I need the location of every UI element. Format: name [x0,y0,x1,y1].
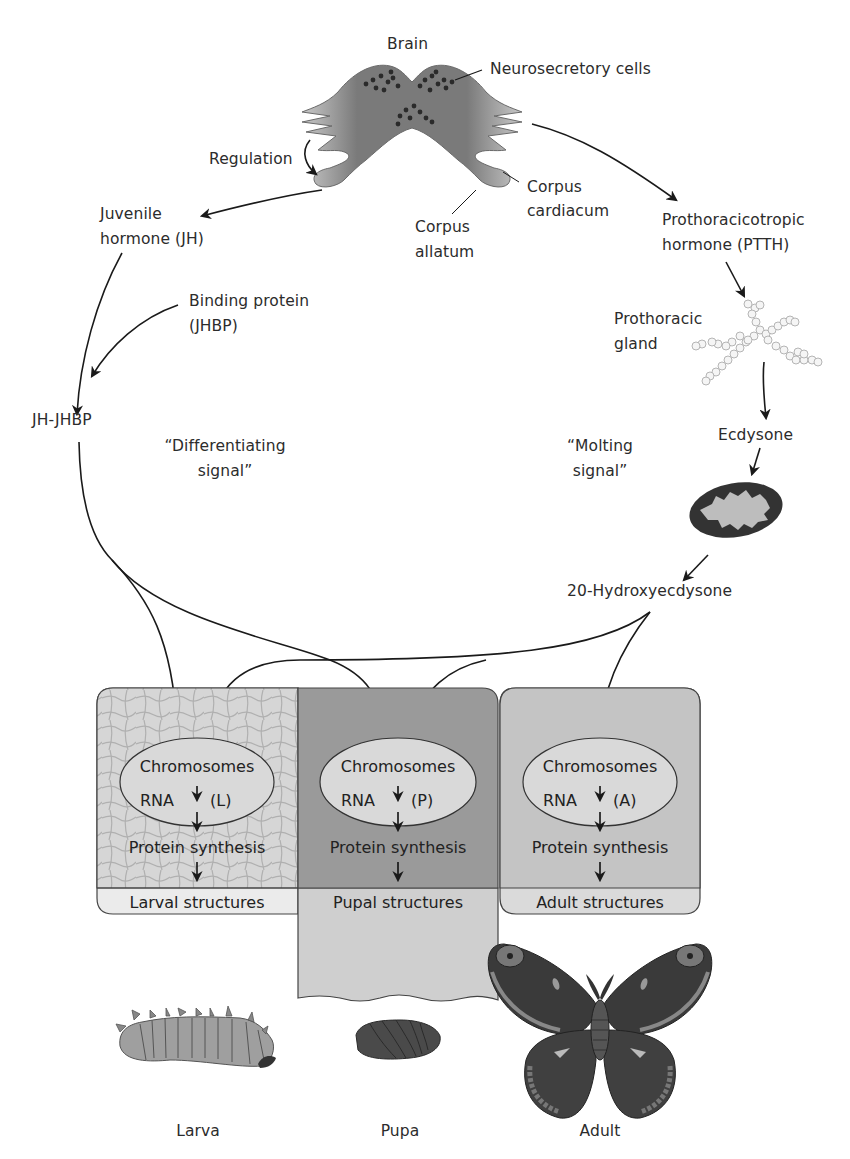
larval-chromosomes: Chromosomes [117,757,277,777]
jh-to-larval-arrow [79,442,177,727]
jhbp-to-complex-arrow [92,305,178,376]
pupal-protein-synthesis: Protein synthesis [308,838,488,858]
ecdysone-arrow [763,362,766,418]
larval-code: (L) [210,791,231,811]
juvenile-hormone-label-line2: hormone (JH) [100,230,204,249]
prothoracic-gland-illustration [692,300,822,385]
differentiating-signal-label-line1: “Differentiating [150,437,300,456]
larval-protein-synthesis: Protein synthesis [107,838,287,858]
jh-to-complex-arrow [77,253,122,414]
regulation-arrow [305,140,316,174]
gland-arrow [726,262,744,296]
hydroxyecdysone-label: 20-Hydroxyecdysone [567,582,732,601]
binding-protein-label-line2: (JHBP) [189,317,238,336]
adult-cell [500,688,700,914]
pupa-illustration [356,1020,440,1059]
mitochondrion-arrow [752,448,760,474]
adult-rna: RNA [543,791,577,811]
differentiating-signal-label-line2: signal” [150,462,300,481]
molting-signal-label-line2: signal” [545,462,655,481]
jh-arrow [202,190,322,216]
prothoracic-gland-label-line2: gland [614,335,658,354]
larval-cell [97,688,298,914]
hormone-regulation-diagram: Brain Neurosecretory cells Regulation Co… [0,0,850,1159]
pupal-chromosomes: Chromosomes [318,757,478,777]
pupal-rna: RNA [341,791,375,811]
adult-chromosomes: Chromosomes [520,757,680,777]
adult-structures: Adult structures [510,893,690,913]
juvenile-hormone-label-line1: Juvenile [100,205,162,224]
corpus-allatum-label-line1: Corpus [415,218,470,237]
mitochondrion-illustration [685,475,787,545]
larval-rna: RNA [140,791,174,811]
corpus-cardiacum-label-line1: Corpus [527,178,582,197]
corpus-allatum-pointer [452,190,476,214]
pupal-code: (P) [411,791,433,811]
stage-label-pupa: Pupa [360,1122,440,1141]
larva-illustration [116,1006,276,1068]
brain-label: Brain [387,35,428,54]
ptth-label-line2: hormone (PTTH) [662,236,789,255]
moth-illustration [488,944,712,1118]
adult-protein-synthesis: Protein synthesis [510,838,690,858]
jh-jhbp-label: JH-JHBP [32,411,92,430]
larval-structures: Larval structures [107,893,287,913]
neurosecretory-cells-label: Neurosecretory cells [490,60,651,79]
pupal-structures: Pupal structures [308,893,488,913]
stage-label-adult: Adult [560,1122,640,1141]
adult-code: (A) [613,791,636,811]
ecdysone-label: Ecdysone [718,426,793,445]
molting-signal-label-line1: “Molting [545,437,655,456]
ptth-label-line1: Prothoracicotropic [662,211,805,230]
binding-protein-label-line1: Binding protein [189,292,309,311]
prothoracic-gland-label-line1: Prothoracic [614,310,702,329]
brain-illustration [302,65,522,187]
regulation-label: Regulation [209,150,293,169]
hydroxyecdysone-arrow [684,555,708,580]
corpus-cardiacum-label-line2: cardiacum [527,202,609,221]
corpus-allatum-label-line2: allatum [415,243,474,262]
stage-label-larva: Larva [158,1122,238,1141]
